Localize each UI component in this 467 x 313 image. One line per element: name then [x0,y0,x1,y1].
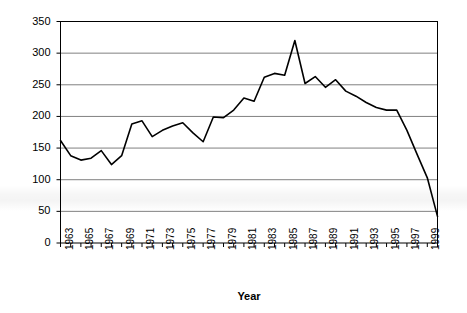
y-tick-mark-group [57,22,61,244]
chart-container: Number of Amakudari Year 050100150200250… [0,0,467,313]
data-series-line [61,40,438,216]
plot-svg [0,0,467,313]
plot-area-frame [61,22,438,244]
x-tick-mark-group [61,243,438,247]
gridline-group [61,22,438,212]
